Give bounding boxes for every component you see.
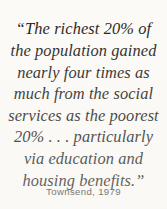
pull-quote-card: “The richest 20% of the population gaine… (0, 0, 167, 209)
quote-line: nearly four times as (0, 62, 167, 84)
quote-attribution: Townsend, 1979 (0, 186, 167, 198)
quote-line: “The richest 20% of (0, 18, 167, 40)
quote-line: via education and (0, 148, 167, 170)
quote-line: 20% . . . particularly (0, 126, 167, 148)
quote-line: much from the social (0, 83, 167, 105)
quote-line: services as the poorest (0, 105, 167, 127)
quote-line: the population gained (0, 40, 167, 62)
quote-text: “The richest 20% of the population gaine… (0, 18, 167, 191)
